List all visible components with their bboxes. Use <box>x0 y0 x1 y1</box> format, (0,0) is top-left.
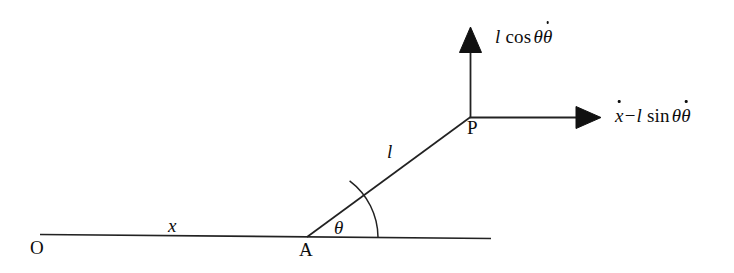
vertical-label-rate-overdot-icon <box>546 21 549 24</box>
angle-label: θ <box>334 218 343 237</box>
horizontal-label-function: sin <box>647 105 672 126</box>
displacement-label: x <box>168 216 176 235</box>
horizontal-label-angle: θ <box>672 105 682 126</box>
origin-point-label: O <box>30 238 44 257</box>
vertical-vector-arrowhead <box>460 27 482 53</box>
vertical-label-rate-symbol: θ <box>543 27 553 46</box>
horizontal-label-first-term: x <box>615 106 624 125</box>
horizontal-label-rate-symbol: θ <box>681 106 691 125</box>
angle-arc <box>350 181 378 237</box>
horizontal-label-first-term-overdot-icon <box>618 100 621 103</box>
physics-diagram-canvas: O A P x l θ l cosθθ x−l sinθθ <box>0 0 734 273</box>
ground-line <box>40 235 491 239</box>
rod-length-label: l <box>387 142 392 161</box>
pivot-point-label: A <box>299 240 313 259</box>
vertical-vector-label: l cosθθ <box>495 27 552 46</box>
vertical-label-angle: θ <box>533 26 543 47</box>
vertical-label-function: cos <box>505 26 533 47</box>
horizontal-label-rate: θ <box>681 106 691 125</box>
horizontal-vector-label: x−l sinθθ <box>615 106 691 125</box>
horizontal-vector-arrowhead <box>576 107 601 129</box>
horizontal-label-rate-overdot-icon <box>685 100 688 103</box>
horizontal-label-operator: − <box>624 105 637 126</box>
vertical-label-rate: θ <box>543 27 553 46</box>
horizontal-label-first-term-symbol: x <box>615 106 624 125</box>
particle-point-label: P <box>467 118 478 137</box>
rod-line <box>307 117 471 237</box>
diagram-vector-layer <box>0 0 734 273</box>
